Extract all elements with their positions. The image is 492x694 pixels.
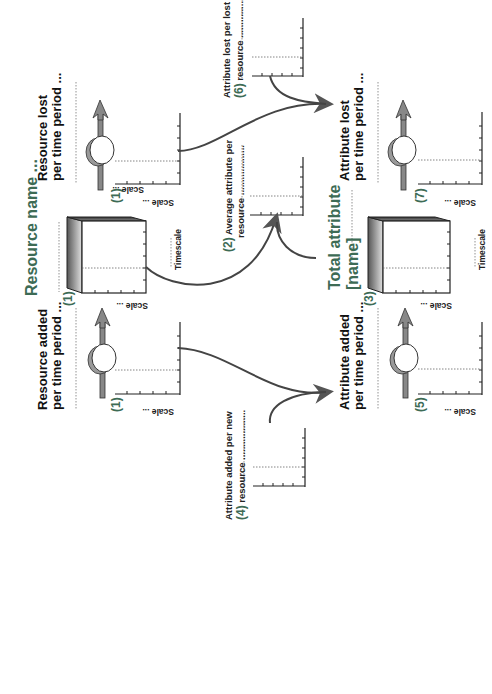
resource-lost-scale-label: Scale ... [142,198,174,208]
total-attribute-stock-box [368,217,450,293]
total-attribute-line1: Total attribute [326,185,344,290]
resource-stock-scale-label: Scale ... [116,301,148,311]
total-stock-scale-label: Scale ... [420,301,452,311]
attr-added-per-new-chart [253,428,305,487]
attribute-lost-chart [418,112,482,185]
attribute-lost-line2: per time period ... [352,73,366,181]
connector-resource-lost-to-attribute-lost [178,104,328,151]
resource-lost-chart [115,113,180,185]
attribute-added-line1: Attribute added [338,302,352,410]
attribute-lost-scale-label: Scale ... [444,198,476,208]
total-stock-timescale: Timescale [478,229,487,270]
average-attr-line2: resource ................... [236,140,247,252]
resource-lost-line2: per time period ... [50,73,64,181]
resource-added-label: Resource added per time period ... [36,302,63,410]
total-stock-number: (3) [363,291,376,306]
attribute-added-scale-label: Scale ... [444,407,476,417]
average-attr-label: (2) Average attribute per resource .....… [222,140,247,252]
attribute-added-valve [390,308,418,398]
resource-added-valve [88,308,116,398]
resource-stock-number: (1) [62,291,75,306]
attr-lost-per-lost-label: Attribute lost per lost (6) resource ...… [222,0,247,98]
connector-resource-added-to-attribute-added [178,348,328,393]
attribute-added-number: (5) [414,397,427,412]
average-attr-line1-row: (2) Average attribute per [222,140,236,252]
resource-name-label: Resource name ... [24,159,41,296]
resource-lost-scale: Scale ... [112,185,144,195]
attr-added-per-new-line2-row: (4) resource ................... [235,410,249,520]
resource-lost-valve [86,100,114,190]
resource-stock-box [67,217,146,293]
attr-added-per-new-label: Attribute added per new (4) resource ...… [224,410,249,520]
attribute-lost-line1: Attribute lost [338,73,352,181]
connector-stock-to-average [146,218,276,285]
attr-lost-per-lost-chart [252,18,303,77]
resource-stock-timescale: Timescale [174,229,183,270]
attr-lost-per-lost-line2-row: (6) resource ................... [233,0,247,98]
resource-added-line2: per time period ... [50,302,64,410]
connector-4-to-attribute-added [270,392,326,423]
average-attr-number: (2) [221,237,235,252]
average-attr-chart [250,157,303,216]
attr-lost-per-lost-line2: resource ................... [234,0,245,81]
resource-added-scale-label: Scale ... [142,407,174,417]
connector-6-to-attribute-lost [270,76,326,104]
attribute-added-line2: per time period ... [352,302,366,410]
attribute-lost-valve [388,100,416,190]
attr-added-per-new-line1: Attribute added per new [224,410,235,520]
attribute-added-label: Attribute added per time period ... [338,302,365,410]
attr-lost-per-lost-number: (6) [232,83,246,98]
resource-added-line1: Resource added [36,302,50,410]
total-attribute-label: Total attribute [name] [326,185,361,290]
resource-added-chart [115,322,180,395]
total-attribute-line2: [name] [344,185,362,290]
connector-total-to-average [277,222,316,258]
attribute-lost-label: Attribute lost per time period ... [338,73,365,181]
attr-added-per-new-line2: resource ................... [236,410,247,503]
resource-added-number: (1) [110,397,123,412]
attr-added-per-new-number: (4) [234,505,248,520]
diagram-canvas [0,0,492,694]
attribute-lost-number: (7) [414,188,427,203]
average-attr-line1: Average attribute per [223,140,234,235]
attribute-added-chart [418,322,482,395]
